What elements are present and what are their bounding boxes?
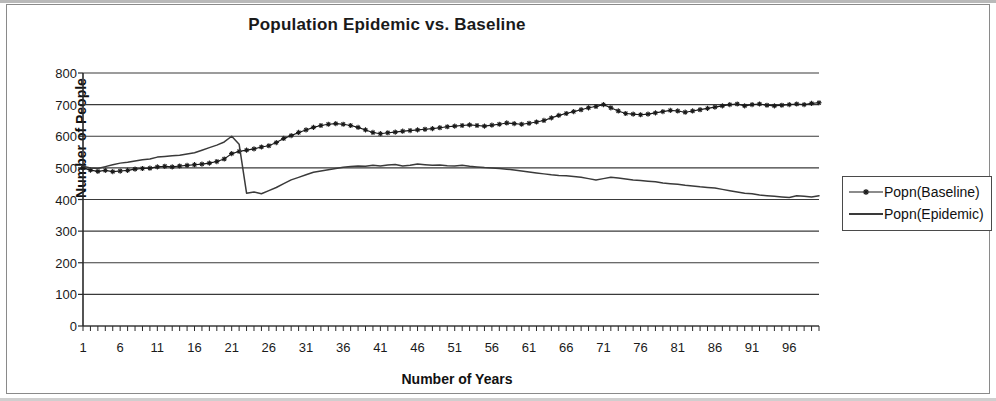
legend-label: Popn(Epidemic) (884, 207, 984, 221)
series-line-1 (83, 103, 819, 172)
legend-label: Popn(Baseline) (884, 185, 980, 199)
legend-item-1: Popn(Baseline) (848, 181, 984, 203)
chart-legend: Popn(Baseline)Popn(Epidemic) (842, 176, 992, 231)
legend-star-line-icon (848, 185, 884, 199)
series-markers-1 (80, 100, 821, 174)
chart-page: Population Epidemic vs. Baseline Number … (0, 0, 996, 401)
series-line-2 (83, 136, 819, 197)
chart-frame: Population Epidemic vs. Baseline Number … (6, 4, 990, 394)
legend-line-icon (848, 207, 884, 221)
legend-item-2: Popn(Epidemic) (848, 203, 984, 225)
page-edge-top (0, 0, 996, 3)
